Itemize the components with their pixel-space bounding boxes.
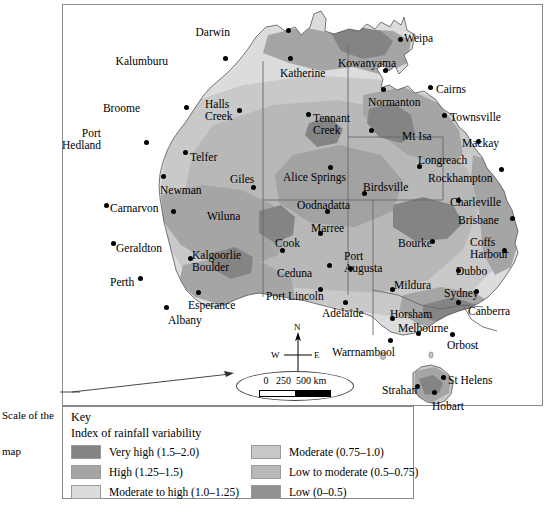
city-label: Kowanyama <box>338 58 396 70</box>
city-dot <box>161 174 166 179</box>
city-label: Cairns <box>436 84 466 96</box>
city-label: CoffsHarbour <box>470 236 508 260</box>
legend-subtitle: Index of rainfall variability <box>71 426 201 441</box>
city-dot <box>432 390 437 395</box>
legend-swatch <box>71 445 101 459</box>
legend-label: High (1.25–1.5) <box>109 466 183 478</box>
city-dot <box>398 37 403 42</box>
city-label: PortHedland <box>62 127 101 151</box>
city-label: Telfer <box>190 152 217 164</box>
city-label: Orbost <box>447 340 478 352</box>
city-label: Esperance <box>188 300 235 312</box>
legend-row: Moderate (0.75–1.0) <box>251 442 418 461</box>
city-label: Newman <box>160 185 202 197</box>
scale-block-white <box>260 391 295 396</box>
legend-label: Very high (1.5–2.0) <box>109 446 199 458</box>
scale-block-black <box>295 391 330 396</box>
legend-row: Low to moderate (0.5–0.75) <box>251 462 418 481</box>
city-label: Normanton <box>368 97 420 109</box>
city-label: Wiluna <box>207 211 240 223</box>
city-dot <box>144 140 149 145</box>
city-dot <box>450 332 455 337</box>
city-dot <box>428 85 433 90</box>
city-dot <box>328 165 333 170</box>
city-label: Alice Springs <box>283 172 346 184</box>
city-dot <box>237 108 242 113</box>
flinders-island <box>429 352 433 358</box>
legend-row: High (1.25–1.5) <box>71 462 239 481</box>
city-dot <box>251 185 256 190</box>
city-label: Mt Isa <box>402 131 432 143</box>
city-label: Adelaide <box>322 308 364 320</box>
city-label: Rockhampton <box>428 173 493 185</box>
city-label: Albany <box>168 315 202 327</box>
legend-swatch <box>251 445 281 459</box>
city-label: Warrnambool <box>332 347 395 359</box>
city-label: Mildura <box>394 280 431 292</box>
legend-row: Moderate to high (1.0–1.25) <box>71 482 239 501</box>
city-label: Sydney <box>444 288 479 300</box>
city-dot <box>369 128 374 133</box>
city-label: Marree <box>311 223 344 235</box>
city-dot <box>183 150 188 155</box>
legend-label: Low to moderate (0.5–0.75) <box>289 466 418 478</box>
city-dot <box>456 300 461 305</box>
city-label: Dubbo <box>456 266 487 278</box>
legend-label: Moderate to high (1.0–1.25) <box>109 486 239 498</box>
city-label: Darwin <box>196 27 231 39</box>
city-dot <box>104 203 109 208</box>
city-label: KalgoorlieBoulder <box>192 249 241 273</box>
scale-annotation-line2: map <box>2 445 54 457</box>
city-label: Townsville <box>450 112 501 124</box>
legend-column-1: Very high (1.5–2.0)High (1.25–1.5)Modera… <box>71 442 239 502</box>
city-label: Port Lincoln <box>266 291 324 303</box>
city-label: Longreach <box>418 155 467 167</box>
legend-swatch <box>251 485 281 499</box>
city-dot <box>164 305 169 310</box>
city-label: Katherine <box>280 68 325 80</box>
scale-bar: 0 250 500 km <box>236 371 354 401</box>
city-label: Oodnadatta <box>297 200 350 212</box>
city-label: Cook <box>275 238 300 250</box>
city-dot <box>388 338 393 343</box>
city-label: Horsham <box>390 309 432 321</box>
city-label: Ceduna <box>277 268 312 280</box>
compass-east-label: E <box>314 350 320 360</box>
city-label: Perth <box>110 277 134 289</box>
legend-swatch <box>71 465 101 479</box>
city-dot <box>499 167 504 172</box>
city-label: PortAugusta <box>344 250 382 274</box>
scale-bar-numbers: 0 250 500 km <box>236 375 354 386</box>
scale-annotation-line1: Scale of the <box>2 409 54 421</box>
legend-swatch <box>251 465 281 479</box>
city-dot <box>327 263 332 268</box>
city-dot <box>510 216 515 221</box>
city-label: Charleville <box>450 197 501 209</box>
city-label: Hobart <box>432 401 464 413</box>
map-page: DarwinWeipaKalumburuKatherineKowanyamaCa… <box>0 0 550 511</box>
city-dot <box>223 56 228 61</box>
city-dot <box>138 276 143 281</box>
city-dot <box>288 56 293 61</box>
legend-box: Key Index of rainfall variability Very h… <box>62 406 414 499</box>
legend-swatch <box>71 485 101 499</box>
city-label: Geraldton <box>116 243 162 255</box>
city-label: Giles <box>230 174 254 186</box>
city-label: Weipa <box>404 33 433 45</box>
scale-annotation: Scale of the map <box>2 385 54 481</box>
legend-label: Moderate (0.75–1.0) <box>289 446 384 458</box>
city-label: Canberra <box>468 306 510 318</box>
compass-west-label: W <box>271 350 280 360</box>
legend-row: Low (0–0.5) <box>251 482 418 501</box>
city-label: Mackay <box>462 138 499 150</box>
city-dot <box>171 209 176 214</box>
legend-column-2: Moderate (0.75–1.0)Low to moderate (0.5–… <box>251 442 418 502</box>
city-dot <box>442 113 447 118</box>
legend-label: Low (0–0.5) <box>289 486 347 498</box>
city-dot <box>343 300 348 305</box>
city-label: HallsCreek <box>205 98 232 122</box>
city-dot <box>441 375 446 380</box>
city-label: Melbourne <box>398 323 448 335</box>
city-label: Strahan <box>382 385 417 397</box>
city-dot <box>381 87 386 92</box>
